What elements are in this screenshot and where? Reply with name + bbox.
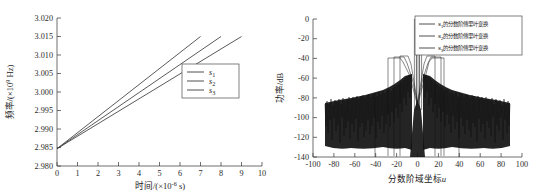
series-line-s1 [57, 37, 201, 149]
right-chart-svg: -140 -120 -100 -80 -60 -40 -20 0 -100 [267, 0, 535, 192]
right-ytick-label: -60 [298, 74, 309, 83]
right-legend[interactable]: s1的分数阶傅里叶变换 s2的分数阶傅里叶变换 s3的分数阶傅里叶变换 [415, 16, 522, 55]
left-x-ticks: 0 1 2 3 4 5 6 7 8 9 10 [55, 162, 266, 178]
left-xtick-label: 7 [198, 169, 202, 178]
right-ytick-label: -120 [294, 133, 309, 142]
panel-frt-spectrum: -140 -120 -100 -80 -60 -40 -20 0 -100 [267, 0, 535, 192]
right-xtick-label: 60 [476, 160, 484, 169]
left-xtick-label: 6 [178, 169, 182, 178]
right-ytick-label: -20 [298, 34, 309, 43]
left-x-axis-title: 时间/(×10-6 s) [135, 180, 185, 191]
left-ytick-label: 3.015 [35, 32, 53, 41]
right-ytick-label: -40 [298, 54, 309, 63]
left-y-axis-title: 频率/(×109 Hz) [4, 64, 15, 119]
left-ytick-label: 3.005 [35, 69, 53, 78]
right-xtick-label: 80 [497, 160, 505, 169]
right-ytick-label: 0 [305, 15, 309, 24]
left-xtick-label: 0 [55, 169, 59, 178]
left-chart-svg: 2.980 2.985 2.990 2.995 3.000 3.005 3.01… [0, 0, 267, 192]
left-legend[interactable]: s1 s2 s3 [182, 64, 239, 98]
left-xtick-label: 2 [96, 169, 100, 178]
right-ytick-label: -80 [298, 94, 309, 103]
left-ytick-label: 2.980 [35, 162, 53, 171]
right-xtick-label: 100 [516, 160, 528, 169]
left-xtick-label: 10 [258, 169, 266, 178]
right-x-axis-title: 分数阶域坐标u [388, 173, 446, 184]
left-ytick-label: 3.010 [35, 51, 53, 60]
right-xtick-label: 40 [455, 160, 463, 169]
right-xtick-label: 20 [434, 160, 442, 169]
right-y-axis-title: 功率/dB [274, 73, 285, 104]
left-xtick-label: 3 [116, 169, 120, 178]
left-ytick-label: 2.985 [35, 143, 53, 152]
figure-root: 2.980 2.985 2.990 2.995 3.000 3.005 3.01… [0, 0, 535, 192]
left-xtick-label: 9 [239, 169, 243, 178]
right-xtick-label: -100 [305, 160, 320, 169]
left-xtick-label: 4 [137, 169, 141, 178]
panel-frequency-time: 2.980 2.985 2.990 2.995 3.000 3.005 3.01… [0, 0, 267, 192]
left-ytick-label: 3.000 [35, 88, 53, 97]
right-xtick-label: 0 [415, 160, 419, 169]
right-xtick-label: -20 [391, 160, 402, 169]
left-xtick-label: 1 [75, 169, 79, 178]
right-ytick-label: -100 [294, 113, 309, 122]
left-ytick-label: 3.020 [35, 14, 53, 23]
left-ytick-label: 2.990 [35, 125, 53, 134]
left-xtick-label: 8 [219, 169, 223, 178]
right-xtick-label: -60 [349, 160, 360, 169]
left-ytick-label: 2.995 [35, 106, 53, 115]
central-core [410, 100, 425, 157]
right-y-ticks: -140 -120 -100 -80 -60 -40 -20 0 [294, 15, 317, 162]
left-xtick-label: 5 [157, 169, 161, 178]
right-xtick-label: -40 [370, 160, 381, 169]
right-xtick-label: -80 [328, 160, 339, 169]
